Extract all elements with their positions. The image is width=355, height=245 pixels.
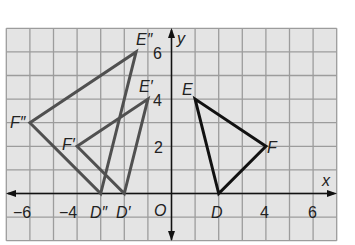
x-axis-label: x [321,172,331,189]
vertex-label-d-double-prime: D″ [90,204,109,221]
vertex-label-d: D [211,204,223,221]
vertex-label-e: E [182,81,193,98]
y-tick-label-4: 4 [153,92,162,109]
vertex-label-e-double-prime: E″ [136,31,154,48]
x-tick-label-6: 6 [308,204,317,221]
x-tick-label-neg6: −6 [13,204,31,221]
coordinate-plane: y x O 6 4 2 −6 −4 4 6 D E F D′ E′ F′ D″ … [0,0,355,245]
vertex-label-d-prime: D′ [116,204,132,221]
vertex-label-e-prime: E′ [139,78,154,95]
x-tick-label-neg4: −4 [59,204,77,221]
y-axis-label: y [176,30,186,47]
origin-label: O [154,202,166,219]
vertex-label-f: F [267,139,278,156]
vertex-label-f-prime: F′ [62,136,76,153]
x-tick-label-4: 4 [260,204,269,221]
vertex-label-f-double-prime: F″ [10,114,27,131]
y-tick-label-6: 6 [153,45,162,62]
y-tick-label-2: 2 [154,139,163,156]
